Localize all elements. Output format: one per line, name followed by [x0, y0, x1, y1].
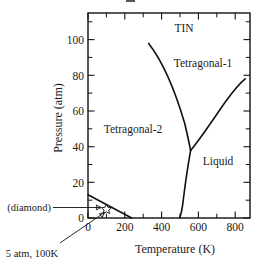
y-tick-label-60: 60: [73, 105, 85, 117]
tetragonal1-liquid-boundary: [191, 79, 246, 151]
diamond-tetragonal2-boundary: [88, 195, 132, 218]
x-axis-title: Temperature (K): [135, 242, 215, 256]
phase-diagram-figure: 0 20 40 60 80 100 0 200 400 600 800 Temp…: [0, 0, 260, 270]
phase-diagram-chart: 0 20 40 60 80 100 0 200 400 600 800 Temp…: [0, 0, 260, 270]
diamond-annotation-label: (diamond): [7, 202, 51, 214]
x-tick-label-600: 600: [190, 221, 208, 233]
y-tick-label-40: 40: [73, 141, 85, 153]
region-label-tetragonal-2: Tetragonal-2: [104, 123, 163, 136]
region-label-liquid: Liquid: [203, 155, 234, 168]
x-tick-label-200: 200: [116, 221, 134, 233]
y-axis-title: Pressure (atm): [51, 83, 65, 153]
x-axis-major-ticks: [88, 212, 235, 219]
region-label-tin: TIN: [174, 22, 194, 34]
x-tick-label-800: 800: [227, 221, 245, 233]
top-axis-ticks: [88, 13, 235, 20]
tetragonal2-liquid-boundary: [180, 151, 191, 219]
y-tick-label-100: 100: [67, 34, 85, 46]
right-axis-ticks: [244, 22, 251, 218]
y-tick-label-80: 80: [73, 70, 85, 82]
x-tick-label-400: 400: [153, 221, 171, 233]
plot-frame: [88, 13, 250, 218]
y-tick-label-20: 20: [73, 177, 85, 189]
state-point-annotation-label: 5 atm, 100K: [6, 248, 59, 259]
y-tick-label-0: 0: [78, 212, 84, 224]
region-label-tetragonal-1: Tetragonal-1: [174, 57, 233, 70]
diamond-leader-arrow: [53, 205, 101, 210]
